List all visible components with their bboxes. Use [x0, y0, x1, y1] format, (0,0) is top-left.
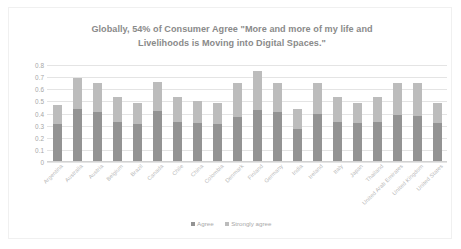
bar-segment-agree[interactable] — [153, 111, 162, 162]
y-axis-tick-label: 0 — [14, 159, 44, 166]
legend-swatch — [191, 222, 195, 226]
stacked-bar[interactable] — [53, 105, 62, 162]
bar-segment-strongly-agree[interactable] — [213, 103, 222, 125]
stacked-bar[interactable] — [373, 97, 382, 162]
bar-segment-strongly-agree[interactable] — [333, 97, 342, 122]
bar-segment-agree[interactable] — [133, 124, 142, 162]
x-axis-tick-label: Denmark — [223, 163, 244, 184]
stacked-bar[interactable] — [213, 103, 222, 162]
legend-label: Agree — [197, 220, 214, 227]
bar-segment-agree[interactable] — [193, 123, 202, 162]
bar-slot — [107, 65, 127, 162]
bar-slot — [367, 65, 387, 162]
x-axis-line — [47, 161, 447, 162]
bar-segment-strongly-agree[interactable] — [293, 109, 302, 130]
x-axis-tick-labels: ArgentinaAustraliaAustriaBelgiumBrazilCa… — [47, 163, 447, 215]
bar-segment-agree[interactable] — [333, 122, 342, 162]
bar-segment-agree[interactable] — [293, 129, 302, 162]
stacked-bar[interactable] — [193, 101, 202, 162]
legend-label: Strongly agree — [231, 220, 271, 227]
bar-segment-strongly-agree[interactable] — [373, 97, 382, 122]
x-axis-tick-label: Austria — [87, 163, 104, 180]
stacked-bar[interactable] — [113, 97, 122, 162]
bar-segment-strongly-agree[interactable] — [133, 103, 142, 125]
bar-segment-agree[interactable] — [313, 114, 322, 163]
stacked-bar[interactable] — [353, 103, 362, 162]
bar-segment-strongly-agree[interactable] — [93, 83, 102, 112]
stacked-bar[interactable] — [393, 83, 402, 162]
bar-segment-agree[interactable] — [273, 112, 282, 162]
bar-segment-strongly-agree[interactable] — [353, 103, 362, 124]
y-axis-tick-label: 0.7 — [14, 74, 44, 81]
bar-segment-strongly-agree[interactable] — [433, 103, 442, 124]
bar-slot — [287, 65, 307, 162]
bar-segment-strongly-agree[interactable] — [313, 83, 322, 113]
x-axis-tick-label: China — [189, 163, 204, 178]
stacked-bar[interactable] — [173, 97, 182, 162]
bar-slot — [347, 65, 367, 162]
bar-segment-agree[interactable] — [373, 122, 382, 162]
y-axis-tick-label: 0.4 — [14, 110, 44, 117]
stacked-bar[interactable] — [233, 83, 242, 162]
bar-segment-strongly-agree[interactable] — [253, 71, 262, 110]
bar-segment-strongly-agree[interactable] — [273, 83, 282, 112]
bar-segment-agree[interactable] — [173, 122, 182, 162]
stacked-bar[interactable] — [333, 97, 342, 162]
bar-segment-agree[interactable] — [93, 112, 102, 162]
bar-segment-strongly-agree[interactable] — [153, 82, 162, 111]
stacked-bar[interactable] — [73, 78, 82, 162]
bar-segment-agree[interactable] — [233, 117, 242, 162]
y-axis-tick-label: 0.3 — [14, 122, 44, 129]
legend-item[interactable]: Agree — [191, 220, 214, 227]
bar-segment-strongly-agree[interactable] — [193, 101, 202, 123]
stacked-bar[interactable] — [313, 83, 322, 162]
bar-segment-agree[interactable] — [113, 122, 122, 162]
stacked-bar[interactable] — [433, 103, 442, 162]
bar-segment-agree[interactable] — [353, 123, 362, 162]
legend-item[interactable]: Strongly agree — [225, 220, 272, 227]
bar-slot — [307, 65, 327, 162]
bar-segment-agree[interactable] — [433, 123, 442, 162]
bar-segment-agree[interactable] — [393, 115, 402, 162]
bar-slot — [387, 65, 407, 162]
bar-segment-agree[interactable] — [53, 124, 62, 162]
x-axis-tick-label: Japan — [349, 163, 364, 178]
bar-slot — [227, 65, 247, 162]
x-axis-tick-label: Chile — [171, 163, 185, 177]
bar-segment-strongly-agree[interactable] — [413, 83, 422, 116]
bar-group — [47, 65, 447, 162]
bar-segment-agree[interactable] — [213, 124, 222, 162]
chart-legend: AgreeStrongly agree — [9, 220, 453, 227]
bar-slot — [127, 65, 147, 162]
x-axis-tick-label: Finland — [247, 163, 265, 181]
y-axis-tick-label: 0.1 — [14, 146, 44, 153]
bar-segment-agree[interactable] — [73, 109, 82, 162]
x-axis-tick-label: Colombia — [203, 163, 225, 185]
legend-swatch — [225, 222, 229, 226]
y-axis-tick-label: 0.8 — [14, 62, 44, 69]
x-axis-tick-label: India — [291, 163, 304, 176]
bar-segment-strongly-agree[interactable] — [53, 105, 62, 124]
x-axis-tick-label: Italy — [332, 163, 344, 175]
stacked-bar[interactable] — [93, 83, 102, 162]
bar-segment-strongly-agree[interactable] — [233, 83, 242, 117]
stacked-bar[interactable] — [253, 71, 262, 162]
bar-segment-strongly-agree[interactable] — [173, 97, 182, 122]
bar-segment-strongly-agree[interactable] — [393, 83, 402, 115]
x-axis-tick-label: Germany — [263, 163, 284, 184]
bar-slot — [167, 65, 187, 162]
x-axis-tick-label: Brazil — [130, 163, 145, 178]
stacked-bar[interactable] — [413, 83, 422, 162]
bar-segment-strongly-agree[interactable] — [113, 97, 122, 122]
chart-title-line-1: Globally, 54% of Consumer Agree "More an… — [91, 24, 372, 34]
stacked-bar[interactable] — [133, 103, 142, 162]
x-axis-tick-label: Canada — [146, 163, 165, 182]
y-axis-tick-label: 0.2 — [14, 134, 44, 141]
bar-segment-agree[interactable] — [413, 116, 422, 162]
stacked-bar[interactable] — [153, 82, 162, 162]
stacked-bar[interactable] — [273, 83, 282, 162]
stacked-bar[interactable] — [293, 109, 302, 162]
bar-segment-agree[interactable] — [253, 110, 262, 162]
bar-segment-strongly-agree[interactable] — [73, 78, 82, 108]
y-axis-tick-label: 0.6 — [14, 86, 44, 93]
